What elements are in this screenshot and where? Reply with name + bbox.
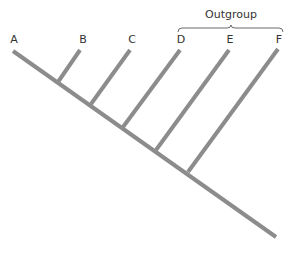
branch-c	[91, 50, 130, 104]
outgroup-label: Outgroup	[205, 8, 257, 21]
cladogram-diagram: ABCDEF Outgroup	[0, 0, 295, 254]
trunk-branch	[13, 51, 276, 237]
taxon-label-c: C	[128, 33, 136, 46]
taxon-label-e: E	[227, 33, 234, 46]
taxon-label-a: A	[10, 33, 18, 46]
taxon-label-group: ABCDEF	[10, 33, 282, 46]
branch-f	[188, 49, 278, 172]
taxon-label-d: D	[177, 33, 185, 46]
branch-d	[123, 50, 180, 127]
taxon-label-f: F	[276, 33, 282, 46]
taxon-label-b: B	[79, 33, 87, 46]
outgroup-bracket	[178, 25, 283, 32]
branch-b	[58, 50, 80, 82]
branch-group	[58, 49, 278, 172]
